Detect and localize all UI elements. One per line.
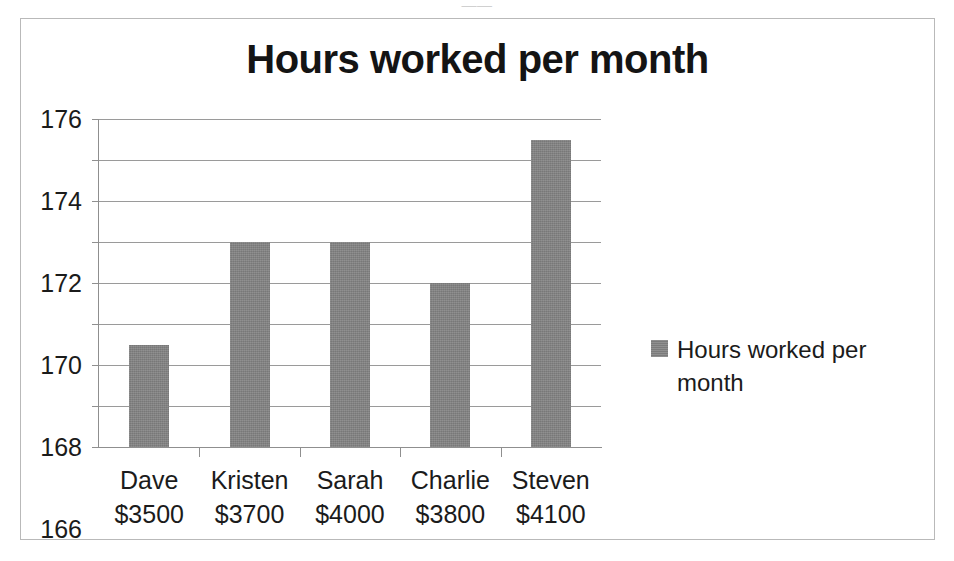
y-axis-tick: 166: [92, 324, 99, 325]
x-axis-category-amount: $3700: [199, 497, 299, 531]
x-axis-category-label: Sarah$4000: [300, 463, 400, 531]
y-axis-tick-label: 174: [40, 187, 82, 216]
bar: [330, 242, 370, 447]
bar: [230, 242, 270, 447]
y-axis-tick: 160: [92, 447, 99, 448]
x-axis-category-label: Steven$4100: [501, 463, 601, 531]
chart-title: Hours worked per month: [21, 37, 934, 82]
x-axis-tick: [400, 448, 401, 457]
bar: [531, 140, 571, 448]
x-axis-tick: [501, 448, 502, 457]
x-axis-category-amount: $4000: [300, 497, 400, 531]
y-axis-tick-label: 166: [40, 515, 82, 544]
y-axis-tick-label: 176: [40, 105, 82, 134]
y-axis-tick: 170: [92, 242, 99, 243]
bar: [430, 283, 470, 447]
y-axis-tick: 174: [92, 160, 99, 161]
chart-legend: Hours worked per month: [651, 333, 901, 399]
x-axis-category-amount: $3500: [99, 497, 199, 531]
gridline: [99, 201, 601, 202]
x-axis-category-label: Charlie$3800: [400, 463, 500, 531]
x-axis-category-label: Kristen$3700: [199, 463, 299, 531]
x-axis-category-amount: $4100: [501, 497, 601, 531]
y-axis-tick: 162: [92, 406, 99, 407]
y-axis-tick-label: 172: [40, 269, 82, 298]
x-axis-tick: [300, 448, 301, 457]
y-axis-tick: 168: [92, 283, 99, 284]
x-axis-category-name: Sarah: [317, 466, 384, 494]
x-axis-category-name: Dave: [120, 466, 178, 494]
gridline: [99, 160, 601, 161]
x-axis-line: [98, 447, 602, 448]
y-axis-tick-label: 170: [40, 351, 82, 380]
y-axis-tick: 172: [92, 201, 99, 202]
plot-area: 160162164166168170172174176 Dave$3500Kri…: [99, 119, 601, 447]
x-axis-category-name: Kristen: [211, 466, 289, 494]
legend-swatch-icon: [651, 340, 668, 357]
y-axis-tick: 164: [92, 365, 99, 366]
chart-frame: Hours worked per month 16016216416616817…: [20, 18, 935, 540]
y-axis-tick: 176: [92, 119, 99, 120]
legend-label: Hours worked per month: [677, 333, 882, 399]
x-axis-tick: [199, 448, 200, 457]
x-axis-category-name: Charlie: [411, 466, 490, 494]
x-axis-category-amount: $3800: [400, 497, 500, 531]
bar: [129, 345, 169, 448]
x-axis-category-label: Dave$3500: [99, 463, 199, 531]
gridline: [99, 119, 601, 120]
x-axis-category-name: Steven: [512, 466, 590, 494]
y-axis-tick-label: 168: [40, 433, 82, 462]
scan-top-text-remnant: ——: [0, 0, 954, 15]
